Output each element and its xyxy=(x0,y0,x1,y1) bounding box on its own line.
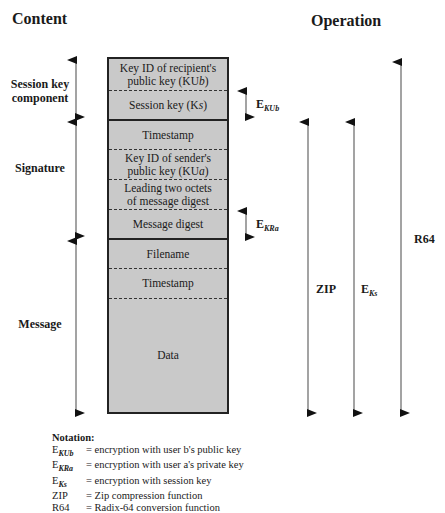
field-message-timestamp: Timestamp xyxy=(109,269,227,298)
field-filename: Filename xyxy=(109,240,227,268)
field-sender-key-id: Key ID of sender's public key (KUa) xyxy=(109,150,227,179)
notation-item: R64 = Radix-64 conversion function xyxy=(52,502,244,513)
op-label-ekub: EKUb xyxy=(256,97,279,113)
notation-item: EKRa = encryption with user a's private … xyxy=(52,459,244,475)
field-message-digest: Message digest xyxy=(109,210,227,238)
notation-item: ZIP = Zip compression function xyxy=(52,490,244,502)
field-data: Data xyxy=(109,299,227,412)
op-label-eks: EKs xyxy=(361,282,377,298)
op-label-ekra: EKRa xyxy=(256,217,279,233)
field-signature-timestamp: Timestamp xyxy=(109,121,227,149)
field-leading-octets: Leading two octets of message digest xyxy=(109,180,227,209)
notation-item: EKs = encryption with session key xyxy=(52,475,244,491)
field-session-key: Session key (Ks) xyxy=(109,91,227,120)
notation-item: EKUb = encryption with user b's public k… xyxy=(52,444,244,460)
notation-title: Notation: xyxy=(52,432,244,444)
op-label-zip: ZIP xyxy=(316,282,336,297)
pgp-message-box: Key ID of recipient's public key (KUb) S… xyxy=(107,57,229,414)
op-label-r64: R64 xyxy=(414,232,435,247)
field-recipient-key-id: Key ID of recipient's public key (KUb) xyxy=(109,59,227,90)
notation-legend: Notation: EKUb = encryption with user b'… xyxy=(52,432,244,513)
